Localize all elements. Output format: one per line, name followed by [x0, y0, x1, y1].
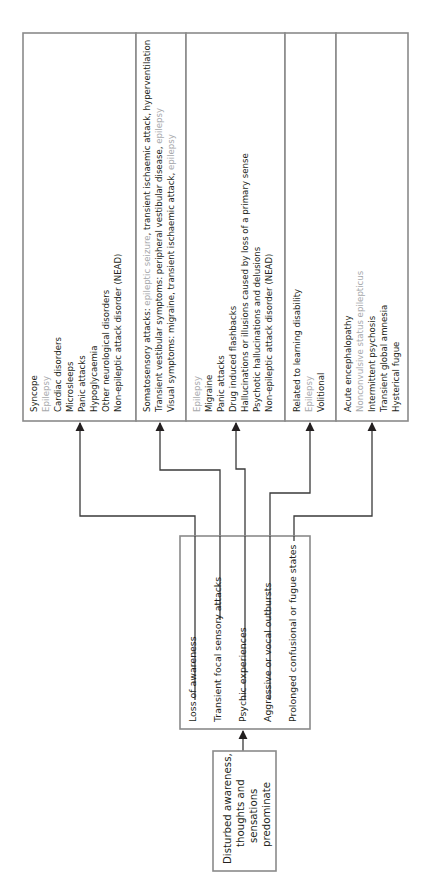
dx-volitional: Volitional [316, 373, 326, 412]
dx-ncse: Nonconvulsive status epilepticus [355, 270, 365, 412]
dx-intermittent-psychosis: Intermittent psychosis [367, 315, 377, 412]
connector-prolonged [294, 423, 372, 541]
dx-panic-3: Panic attacks [216, 355, 226, 412]
source-line-2: thoughts and [235, 779, 246, 847]
dx-epilepsy-3: Epilepsy [192, 376, 202, 412]
dx-migraine: Migraine [204, 375, 214, 412]
dx-psychotic: Psychotic hallucinations and delusions [252, 246, 262, 412]
dx-panic: Panic attacks [77, 355, 87, 412]
symptom-psychic: Psychic experiences [237, 627, 248, 722]
symptom-prolonged: Prolonged confusional or fugue states [287, 544, 298, 722]
dx-syncope: Syncope [29, 375, 39, 412]
symptom-transient-focal: Transient focal sensory attacks [212, 577, 223, 723]
dx-hysterical-fugue: Hysterical fugue [391, 342, 401, 412]
connector-loss-of-awareness [80, 423, 195, 700]
dx-nead-3: Non-epileptic attack disorder (NEAD) [264, 254, 274, 412]
symptom-loss-of-awareness: Loss of awareness [187, 636, 198, 722]
dx-somatosensory: Somatosensory attacks: epileptic seizure… [142, 40, 152, 412]
source-line-4: predominate [261, 782, 272, 847]
dx-visual: Visual symptoms: migraine, transient isc… [166, 134, 176, 412]
diagram-canvas: Disturbed awareness, thoughts and sensat… [0, 0, 431, 895]
dx-hypoglycaemia: Hypoglycaemia [89, 346, 99, 413]
dx-microsleeps: Microsleeps [65, 361, 75, 412]
symptom-aggressive: Aggressive or vocal outbursts [262, 583, 273, 722]
source-line-1: Disturbed awareness, [222, 753, 233, 864]
source-line-3: sensations [248, 789, 259, 843]
dx-epilepsy-4: Epilepsy [304, 376, 314, 412]
dx-tga: Transient global amnesia [379, 305, 389, 413]
dx-other-neuro: Other neurological disorders [101, 289, 111, 412]
dx-learning-disability: Related to learning disability [292, 289, 302, 412]
dx-cardiac: Cardiac disorders [53, 337, 63, 412]
dx-hallucinations-sense: Hallucinations or illusions caused by lo… [240, 153, 250, 412]
dx-encephalopathy: Acute encephalopathy [343, 316, 353, 412]
dx-epilepsy: Epilepsy [41, 376, 51, 412]
dx-flashbacks: Drug induced flashbacks [228, 305, 238, 412]
dx-nead: Non-epileptic attack disorder (NEAD) [113, 254, 123, 412]
dx-vestibular: Transient vestibular symptoms: periphera… [154, 108, 164, 413]
